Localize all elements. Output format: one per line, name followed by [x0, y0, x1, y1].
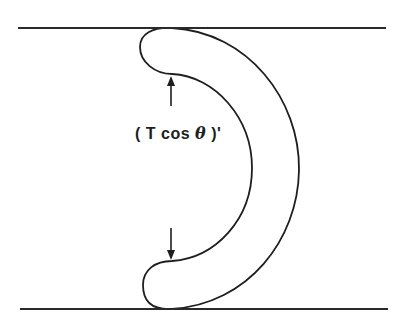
upper-arrow: [167, 76, 175, 106]
theta-symbol: θ: [195, 124, 206, 143]
upper-arrowhead-icon: [167, 76, 175, 86]
diagram-canvas: [0, 0, 410, 324]
label-close: )': [206, 125, 221, 142]
curved-tube-shape: [140, 28, 299, 309]
lower-arrowhead-icon: [167, 250, 175, 260]
label-open: ( T cos: [135, 125, 195, 142]
lower-arrow: [167, 228, 175, 260]
tension-label: ( T cos θ )': [135, 124, 221, 143]
